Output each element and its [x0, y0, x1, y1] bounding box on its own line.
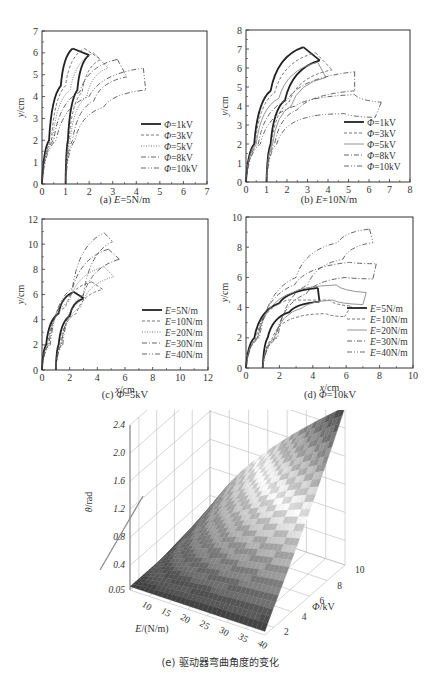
series-curve [108, 249, 119, 259]
z-tick-label: 0.05 [108, 585, 125, 595]
legend-label: Φ=10kV [367, 162, 401, 172]
chart-b-caption: (b) E=10N/m [220, 194, 438, 205]
caption-prefix: (d) [304, 389, 319, 400]
caption-value: =10kV [327, 389, 356, 400]
caption-value: =5kV [124, 389, 148, 400]
y-tick-label: 5 [237, 82, 242, 93]
y-tick-label: 8 [337, 581, 342, 591]
legend-label: Φ=1kV [367, 118, 396, 128]
series-curve [246, 72, 355, 182]
chart-d-svg: 02468100246810x/cmy/cmE=5N/mE=10N/mE=20N… [220, 205, 440, 395]
y-tick-label: 4 [302, 612, 307, 622]
legend-label: Φ=5kV [367, 140, 396, 150]
series-curve [263, 243, 373, 368]
chart-panel-b: 012345678012345678x/cmy/cmΦ=1kVΦ=3kVΦ=5k… [220, 0, 440, 210]
y-tick-label: 5 [33, 69, 38, 80]
x-tick-label: 10 [175, 372, 185, 383]
y-tick-label: 0 [237, 177, 242, 188]
legend-label: E=5N/m [164, 306, 198, 316]
y-axis-label: y/cm [220, 283, 230, 304]
series-curve [246, 300, 351, 368]
y-tick-label: 0 [237, 363, 242, 374]
series-curve [66, 90, 146, 184]
series-curve [373, 264, 376, 279]
legend-label: Φ=8kV [164, 153, 193, 163]
legend-label: Φ=1kV [164, 120, 193, 130]
y-tick-label: 10 [28, 239, 38, 250]
z-tick-label: 0.4 [113, 560, 125, 570]
series-curve [92, 282, 103, 290]
chart-c-caption: (c) Φ=5kV [0, 389, 250, 400]
series-curve [42, 249, 108, 370]
caption-value: =5N/m [120, 194, 150, 205]
y-tick-label: 10 [355, 565, 365, 575]
x-tick-label: 2 [67, 372, 72, 383]
plot-series [246, 47, 381, 182]
x-tick-label: 8 [150, 372, 155, 383]
x-tick-label: 6 [123, 372, 128, 383]
x-tick-label: 30 [217, 625, 230, 639]
y-tick-label: 8 [33, 264, 38, 275]
legend-label: Φ=3kV [164, 131, 193, 141]
legend-label: E=20N/m [164, 328, 203, 338]
y-tick-label: 2 [33, 339, 38, 350]
y-tick-label: 10 [232, 212, 242, 223]
y-tick-label: 2 [237, 332, 242, 343]
y-tick-label: 7 [33, 26, 38, 37]
legend-label: Φ=8kV [367, 151, 396, 161]
chart-panel-a: 0123456701234567x/cmy/cmΦ=1kVΦ=3kVΦ=5kVΦ… [0, 0, 220, 210]
legend: E=5N/mE=10N/mE=20N/mE=30N/mE=40N/m [347, 304, 408, 358]
chart-a-caption: (a) E=5N/m [0, 194, 250, 205]
z-tick-label: 1.2 [113, 504, 125, 514]
y-tick-label: 4 [237, 101, 242, 112]
series-curve [263, 302, 320, 368]
series-curve [42, 68, 143, 184]
series-curve [318, 62, 326, 77]
surface-mesh [130, 410, 345, 631]
series-curve [318, 288, 320, 302]
legend: Φ=1kVΦ=3kVΦ=5kVΦ=8kVΦ=10kV [344, 118, 401, 172]
legend-label: E=40N/m [369, 348, 408, 358]
z-axis-label: θ/rad [83, 492, 94, 512]
legend: E=5N/mE=10N/mE=20N/mE=30N/mE=40N/m [142, 306, 203, 360]
chart-b-svg: 012345678012345678x/cmy/cmΦ=1kVΦ=3kVΦ=5k… [220, 0, 440, 200]
y-axis-label: y/cm [15, 285, 26, 306]
y-tick-label: 3 [237, 120, 242, 131]
legend-label: E=30N/m [164, 339, 203, 349]
legend-label: E=20N/m [369, 326, 408, 336]
legend-label: Φ=10kV [164, 164, 198, 174]
chart-e-caption: (e) 驱动器弯曲角度的变化 [0, 654, 440, 669]
y-tick-label: 4 [33, 91, 38, 102]
series-curve [42, 233, 104, 370]
z-tick-label: 1.6 [113, 476, 125, 486]
x-tick-label: 20 [179, 612, 192, 626]
x-tick-label: 10 [140, 599, 153, 613]
y-tick-label: 8 [237, 25, 242, 36]
x-tick-label: 40 [256, 638, 269, 650]
y-axis-label: y/cm [15, 98, 26, 119]
y-tick-label: 6 [33, 47, 38, 58]
caption-prefix: (a) [100, 194, 114, 205]
series-curve [66, 68, 108, 184]
series-curve [56, 242, 113, 370]
legend-label: E=10N/m [369, 315, 408, 325]
legend-label: E=5N/m [369, 304, 403, 314]
series-curve [267, 114, 376, 182]
series-curve [117, 59, 126, 76]
y-tick-label: 6 [237, 63, 242, 74]
series-curve [66, 55, 90, 184]
x-tick-label: 25 [198, 618, 211, 632]
x-tick-label: 4 [310, 370, 315, 381]
y-tick-label: 1 [33, 157, 38, 168]
caption-prefix: (b) [301, 194, 316, 205]
legend-label: E=10N/m [164, 317, 203, 327]
x-tick-label: 0 [40, 372, 45, 383]
series-curve [42, 48, 73, 184]
plot-series [246, 229, 376, 368]
legend-label: E=40N/m [164, 350, 203, 360]
series-curve [246, 288, 318, 368]
y-tick-label: 2 [284, 627, 289, 637]
x-tick-label: 8 [377, 370, 382, 381]
chart-d-caption: (d) Φ=10kV [220, 389, 440, 400]
series-curve [246, 47, 303, 182]
